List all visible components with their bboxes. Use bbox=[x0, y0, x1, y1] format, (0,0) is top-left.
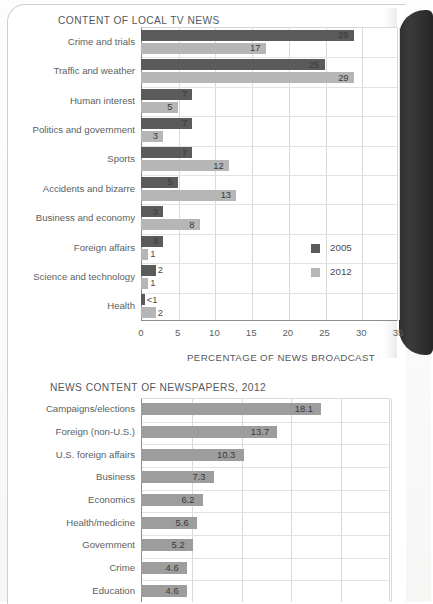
page-spine bbox=[399, 10, 433, 355]
bar-value-label: 10.3 bbox=[217, 449, 235, 460]
category-label: Crime bbox=[0, 562, 135, 573]
gridline-horizontal bbox=[142, 490, 389, 491]
bar-value-label: 1 bbox=[150, 277, 155, 288]
category-label: Business bbox=[0, 471, 135, 482]
bar-value-label: 1 bbox=[150, 248, 155, 259]
category-label: U.S. foreign affairs bbox=[0, 449, 135, 460]
bar-value-label: 5 bbox=[167, 176, 172, 187]
bar bbox=[141, 43, 266, 54]
bar-value-label: 29 bbox=[338, 72, 348, 83]
bar-value-label: 5.2 bbox=[172, 539, 185, 550]
bar-value-label: 2 bbox=[158, 307, 163, 318]
plot-area bbox=[141, 27, 398, 321]
x-axis-tick: 25 bbox=[313, 327, 337, 338]
bar-value-label: 13.7 bbox=[251, 426, 269, 437]
category-label: Education bbox=[0, 585, 135, 596]
bar-value-label: 7 bbox=[182, 117, 187, 128]
category-label: Government bbox=[0, 539, 135, 550]
gridline-vertical bbox=[391, 399, 392, 602]
gridline-horizontal bbox=[142, 422, 389, 423]
category-label: Sports bbox=[0, 153, 135, 164]
category-label: Health/medicine bbox=[0, 517, 135, 528]
x-axis-tick: 20 bbox=[276, 327, 300, 338]
x-axis-tick: 5 bbox=[166, 327, 190, 338]
bar-value-label: 6.2 bbox=[182, 494, 195, 505]
chart-title: CONTENT OF LOCAL TV NEWS bbox=[58, 15, 220, 26]
gridline-horizontal bbox=[142, 293, 397, 294]
gridline-vertical bbox=[362, 28, 363, 320]
legend-swatch-2005 bbox=[311, 244, 320, 253]
legend-swatch-2012 bbox=[311, 268, 320, 277]
gridline-horizontal bbox=[142, 204, 397, 205]
bar bbox=[141, 30, 354, 41]
legend-label-2012: 2012 bbox=[330, 266, 352, 277]
bar-value-label: 4.6 bbox=[166, 585, 179, 596]
bar-value-label: 2 bbox=[158, 264, 163, 275]
bar-value-label: 13 bbox=[221, 189, 231, 200]
bar-value-label: 7 bbox=[182, 88, 187, 99]
x-axis-tick: 10 bbox=[202, 327, 226, 338]
bar-value-label: 7 bbox=[182, 147, 187, 158]
category-label: Crime and trials bbox=[0, 36, 135, 47]
bar-value-label: 25 bbox=[309, 59, 319, 70]
x-axis-tick: 35 bbox=[386, 327, 410, 338]
x-axis-title: PERCENTAGE OF NEWS BROADCAST bbox=[187, 352, 375, 363]
category-label: Economics bbox=[0, 494, 135, 505]
category-label: Business and economy bbox=[0, 212, 135, 223]
bar-value-label: 8 bbox=[189, 219, 194, 230]
gridline-horizontal bbox=[142, 558, 389, 559]
gridline-horizontal bbox=[142, 444, 389, 445]
bar-value-label: 4.6 bbox=[166, 562, 179, 573]
bar bbox=[141, 562, 187, 574]
gridline-horizontal bbox=[142, 467, 389, 468]
bar-value-label: 29 bbox=[338, 29, 348, 40]
bar-value-label: 7.3 bbox=[193, 471, 206, 482]
category-label: Accidents and bizarre bbox=[0, 183, 135, 194]
bar-value-label: 5 bbox=[167, 101, 172, 112]
gridline-vertical bbox=[341, 399, 342, 602]
x-axis-tick: 15 bbox=[239, 327, 263, 338]
bar-value-label: 12 bbox=[213, 160, 223, 171]
gridline-horizontal bbox=[142, 234, 397, 235]
category-label: Human interest bbox=[0, 95, 135, 106]
bar bbox=[141, 294, 145, 305]
bar-value-label: 3 bbox=[153, 130, 158, 141]
bar bbox=[141, 307, 156, 318]
legend-label-2005: 2005 bbox=[330, 242, 352, 253]
gridline-vertical bbox=[399, 28, 400, 320]
category-label: Science and technology bbox=[0, 271, 135, 282]
category-label: Traffic and weather bbox=[0, 65, 135, 76]
bar-value-label: 5.6 bbox=[176, 517, 189, 528]
gridline-horizontal bbox=[142, 512, 389, 513]
chart-title: NEWS CONTENT OF NEWSPAPERS, 2012 bbox=[50, 382, 266, 393]
bar bbox=[141, 59, 325, 70]
category-label: Foreign (non-U.S.) bbox=[0, 426, 135, 437]
category-label: Health bbox=[0, 300, 135, 311]
bar bbox=[141, 265, 156, 276]
x-axis-tick: 0 bbox=[129, 327, 153, 338]
category-label: Foreign affairs bbox=[0, 242, 135, 253]
gridline-vertical bbox=[291, 399, 292, 602]
gridline-horizontal bbox=[142, 175, 397, 176]
bar bbox=[141, 539, 193, 551]
bar bbox=[141, 249, 148, 260]
x-axis-tick: 30 bbox=[349, 327, 373, 338]
gridline-horizontal bbox=[142, 535, 389, 536]
gridline-horizontal bbox=[142, 580, 389, 581]
bar-value-label: <1 bbox=[147, 294, 158, 305]
bar-value-label: 3 bbox=[153, 206, 158, 217]
bar bbox=[141, 585, 187, 597]
gridline-horizontal bbox=[142, 263, 397, 264]
bar-value-label: 18.1 bbox=[295, 403, 313, 414]
category-label: Campaigns/elections bbox=[0, 403, 135, 414]
bar-value-label: 17 bbox=[250, 42, 260, 53]
bar bbox=[141, 72, 354, 83]
bar bbox=[141, 278, 148, 289]
bar-value-label: 3 bbox=[153, 235, 158, 246]
category-label: Politics and government bbox=[0, 124, 135, 135]
